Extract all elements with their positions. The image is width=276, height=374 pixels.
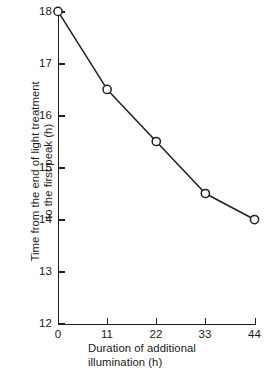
data-point xyxy=(250,215,258,223)
data-markers xyxy=(54,7,259,223)
plot-area xyxy=(0,0,276,374)
chart-figure: 18 17 16 15 14 13 12 0 11 22 33 44 Time … xyxy=(0,0,276,374)
data-point xyxy=(201,189,209,197)
data-point xyxy=(103,85,111,93)
data-point xyxy=(152,137,160,145)
data-line xyxy=(58,11,255,219)
data-point xyxy=(54,7,62,15)
